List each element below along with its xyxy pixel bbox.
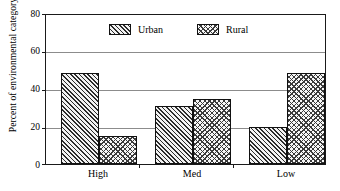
diagonal-hatch-swatch-icon: [109, 24, 131, 35]
y-tick-label-60: 60: [18, 47, 40, 55]
y-tick-label-80: 80: [18, 10, 40, 18]
legend-entry-urban: Urban: [109, 24, 163, 35]
plot-area: Urban Rural: [45, 14, 326, 165]
x-tick-label-med: Med: [183, 168, 201, 179]
legend-entry-rural: Rural: [197, 24, 248, 35]
y-tick-label-20: 20: [18, 123, 40, 131]
bar-rural-high: [99, 136, 137, 164]
y-tick-label-40: 40: [18, 85, 40, 93]
bar-rural-low: [287, 73, 325, 164]
y-tick-label-0: 0: [18, 161, 40, 169]
chart-legend: Urban Rural: [109, 24, 248, 35]
crosshatch-swatch-icon: [197, 24, 219, 35]
bar-urban-low: [249, 127, 287, 164]
bar-chart-figure: Percent of environmental category 80 60 …: [0, 0, 340, 191]
bar-group-container: [46, 15, 325, 164]
bar-rural-med: [193, 99, 231, 164]
bar-urban-high: [61, 73, 99, 164]
x-tick-label-low: Low: [277, 168, 295, 179]
y-axis-tick-labels: 80 60 40 20 0: [16, 0, 40, 191]
legend-label-urban: Urban: [138, 24, 163, 35]
x-axis-tick-labels: High Med Low: [45, 168, 326, 188]
legend-label-rural: Rural: [226, 24, 248, 35]
x-tick-label-high: High: [88, 168, 108, 179]
bar-urban-med: [155, 106, 193, 164]
y-tick-mark-0: [42, 164, 46, 165]
